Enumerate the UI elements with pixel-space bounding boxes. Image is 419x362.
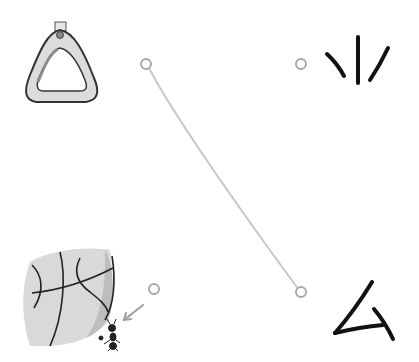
dot-right-top[interactable] — [295, 58, 307, 70]
dot-right-bottom[interactable] — [295, 286, 307, 298]
dot-left-top[interactable] — [140, 58, 152, 70]
dot-left-bottom[interactable] — [148, 283, 160, 295]
arrow-icon — [124, 305, 143, 320]
drawing-canvas — [0, 0, 419, 362]
ball-icon[interactable] — [23, 249, 114, 347]
matching-board: match-pictures-to-symbols — [0, 0, 419, 362]
connection-line[interactable] — [148, 66, 299, 290]
triangle-handle-icon[interactable] — [26, 22, 97, 102]
three-strokes-symbol-icon[interactable] — [327, 37, 388, 83]
open-triangle-symbol-icon[interactable] — [335, 282, 393, 339]
